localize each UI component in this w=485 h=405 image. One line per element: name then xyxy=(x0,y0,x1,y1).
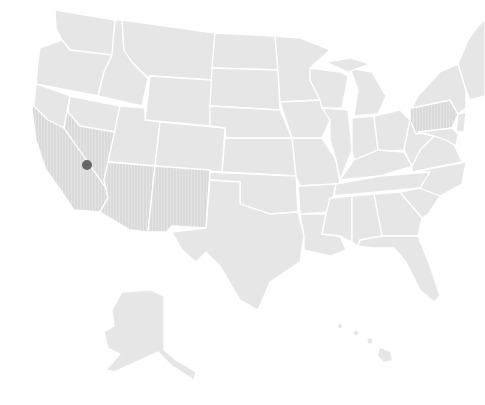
state-north-dakota[interactable] xyxy=(212,33,278,70)
location-marker-dot[interactable] xyxy=(82,160,92,170)
state-alaska[interactable] xyxy=(104,290,196,380)
state-michigan[interactable] xyxy=(350,68,386,116)
state-wyoming[interactable] xyxy=(145,76,212,126)
state-colorado[interactable] xyxy=(155,122,225,172)
state-new-mexico[interactable] xyxy=(148,166,210,232)
contiguous-us xyxy=(32,10,485,310)
state-florida[interactable] xyxy=(358,236,440,302)
state-arizona[interactable] xyxy=(100,162,155,232)
us-map xyxy=(0,0,485,405)
us-map-svg xyxy=(0,0,485,405)
state-hawaii[interactable] xyxy=(338,324,392,362)
state-new-jersey[interactable] xyxy=(456,112,466,132)
state-south-dakota[interactable] xyxy=(210,68,280,110)
state-kansas[interactable] xyxy=(222,138,296,176)
